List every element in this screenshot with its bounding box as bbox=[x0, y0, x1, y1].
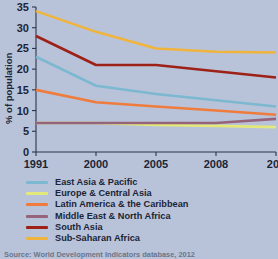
x-axis-ticks: 1991200020052008201 bbox=[24, 152, 278, 170]
y-tick-label: 10 bbox=[17, 105, 29, 117]
legend-item-label: South Asia bbox=[55, 222, 103, 233]
legend-color-swatch bbox=[26, 181, 48, 184]
x-tick-label: 2000 bbox=[84, 158, 108, 170]
legend-item[interactable]: Sub-Saharan Africa bbox=[26, 233, 276, 244]
x-tick-label: 2005 bbox=[144, 158, 168, 170]
legend-item-label: Middle East & North Africa bbox=[55, 211, 171, 222]
source-note: Source: World Development Indicators dat… bbox=[4, 250, 195, 259]
series-line-middle-east-north-africa bbox=[36, 119, 276, 123]
y-tick-label: 20 bbox=[17, 63, 29, 75]
series-line-south-asia bbox=[36, 36, 276, 77]
line-chart-svg: % of population 05101520253035 199120002… bbox=[0, 0, 278, 172]
legend-item[interactable]: Middle East & North Africa bbox=[26, 211, 276, 222]
legend-color-swatch bbox=[26, 192, 48, 195]
x-tick-label: 201 bbox=[267, 158, 278, 170]
legend-item-label: Sub-Saharan Africa bbox=[55, 233, 140, 244]
series-line-sub-saharan-africa bbox=[36, 11, 276, 52]
y-tick-label: 0 bbox=[23, 146, 29, 158]
legend-item[interactable]: East Asia & Pacific bbox=[26, 177, 276, 188]
data-series-group bbox=[36, 11, 276, 127]
y-tick-label: 30 bbox=[17, 22, 29, 34]
legend-item-label: East Asia & Pacific bbox=[55, 177, 137, 188]
y-axis-title: % of population bbox=[3, 53, 14, 124]
y-tick-label: 25 bbox=[17, 42, 29, 54]
legend-color-swatch bbox=[26, 215, 48, 218]
legend-item[interactable]: Latin America & the Caribbean bbox=[26, 199, 276, 210]
chart-plot-area: % of population 05101520253035 199120002… bbox=[0, 0, 278, 172]
legend-color-swatch bbox=[26, 226, 48, 229]
x-tick-label: 1991 bbox=[24, 158, 48, 170]
chart-legend: East Asia & PacificEurope & Central Asia… bbox=[26, 177, 276, 244]
y-tick-label: 15 bbox=[17, 84, 29, 96]
y-axis-ticks: 05101520253035 bbox=[17, 1, 36, 158]
legend-item[interactable]: Europe & Central Asia bbox=[26, 188, 276, 199]
x-tick-label: 2008 bbox=[204, 158, 228, 170]
y-tick-label: 5 bbox=[23, 125, 29, 137]
legend-color-swatch bbox=[26, 237, 48, 240]
y-axis-label-group: % of population bbox=[3, 53, 14, 124]
y-tick-label: 35 bbox=[17, 1, 29, 13]
legend-item-label: Latin America & the Caribbean bbox=[55, 199, 188, 210]
legend-color-swatch bbox=[26, 203, 48, 206]
legend-item[interactable]: South Asia bbox=[26, 222, 276, 233]
legend-item-label: Europe & Central Asia bbox=[55, 188, 152, 199]
